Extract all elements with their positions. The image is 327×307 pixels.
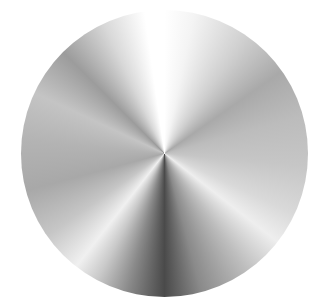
brushed-metal-disc (21, 10, 308, 297)
